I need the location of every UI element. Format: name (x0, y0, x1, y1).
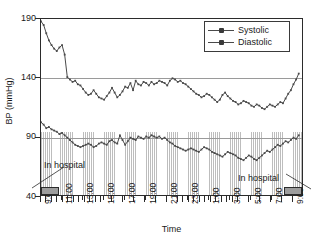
data-point (169, 142, 171, 144)
data-point (98, 143, 100, 145)
data-point (274, 146, 276, 148)
data-point (229, 152, 231, 154)
data-point (111, 87, 113, 89)
x-tick-label: 5:00 (254, 187, 263, 204)
y-tick-mark (35, 137, 40, 138)
data-point (80, 146, 82, 148)
x-tick-mark (82, 196, 83, 200)
data-point (161, 138, 163, 140)
data-point (106, 95, 108, 97)
data-point (45, 32, 47, 34)
data-point (87, 94, 89, 96)
data-point (251, 156, 253, 158)
data-point (135, 139, 137, 141)
data-point (253, 106, 255, 108)
data-point (222, 94, 224, 96)
data-point (122, 139, 124, 141)
data-point (64, 54, 66, 56)
data-point (251, 105, 253, 107)
data-point (145, 82, 147, 84)
data-point (219, 155, 221, 157)
data-point (151, 81, 153, 83)
data-point (279, 101, 281, 103)
data-point (166, 139, 168, 141)
data-point (101, 98, 103, 100)
data-point (269, 151, 271, 153)
data-point (235, 101, 237, 103)
data-point (174, 79, 176, 81)
data-point (224, 92, 226, 94)
data-point (153, 83, 155, 85)
data-point (193, 149, 195, 151)
data-point (190, 147, 192, 149)
data-point (158, 80, 160, 82)
data-point (127, 87, 129, 89)
data-point (256, 159, 258, 161)
data-point (216, 153, 218, 155)
legend: Systolic Diastolic (204, 21, 290, 52)
data-point (53, 48, 55, 50)
data-point (82, 88, 84, 90)
data-point (111, 139, 113, 141)
data-point (274, 106, 276, 108)
data-point (298, 134, 300, 136)
data-point (108, 92, 110, 94)
data-point (285, 98, 287, 100)
x-tick-mark (292, 196, 293, 200)
data-point (130, 82, 132, 84)
data-point (187, 86, 189, 88)
data-point (248, 102, 250, 104)
data-point (69, 139, 71, 141)
x-tick-mark (187, 196, 188, 200)
data-point (90, 144, 92, 146)
data-point (222, 156, 224, 158)
x-tick-mark (103, 196, 104, 200)
data-point (137, 83, 139, 85)
data-point (43, 124, 45, 126)
data-point (148, 85, 150, 87)
legend-label: Systolic (234, 25, 269, 35)
data-point (243, 100, 245, 102)
data-point (174, 145, 176, 147)
x-tick-mark (124, 196, 125, 200)
data-point (69, 79, 71, 81)
data-point (122, 90, 124, 92)
data-point (224, 153, 226, 155)
y-tick-label: 190 (10, 14, 36, 23)
data-point (287, 93, 289, 95)
data-point (164, 82, 166, 84)
line-marker-icon (208, 37, 234, 47)
data-point (282, 102, 284, 104)
data-point (140, 137, 142, 139)
data-point (245, 101, 247, 103)
data-point (203, 95, 205, 97)
data-point (237, 157, 239, 159)
data-point (269, 104, 271, 106)
data-point (124, 86, 126, 88)
data-point (101, 142, 103, 144)
data-point (132, 138, 134, 140)
data-point (293, 137, 295, 139)
leader-line-end (285, 172, 313, 192)
data-point (177, 81, 179, 83)
data-point (119, 134, 121, 136)
data-point (169, 80, 171, 82)
data-point (190, 88, 192, 90)
data-point (48, 39, 50, 41)
data-point (261, 155, 263, 157)
data-point (287, 142, 289, 144)
data-point (108, 140, 110, 142)
data-point (145, 136, 147, 138)
data-point (214, 152, 216, 154)
data-point (266, 106, 268, 108)
line-marker-icon (208, 25, 234, 35)
x-tick-mark (250, 196, 251, 200)
data-point (95, 93, 97, 95)
x-tick-label: 7:00 (275, 187, 284, 204)
data-point (41, 121, 42, 123)
x-tick-mark (166, 196, 167, 200)
data-point (45, 127, 47, 129)
data-point (216, 101, 218, 103)
data-point (211, 151, 213, 153)
data-point (240, 102, 242, 104)
